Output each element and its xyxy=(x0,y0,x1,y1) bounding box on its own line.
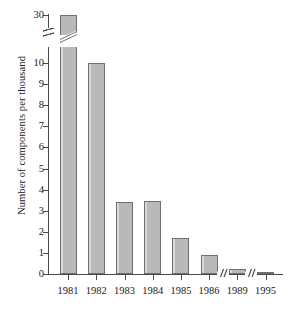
x-axis-tick-mark xyxy=(209,275,210,280)
bar-1986 xyxy=(201,255,218,274)
y-axis-tick-label: 2 xyxy=(39,227,44,238)
y-axis-title: Number of components per thousand xyxy=(16,31,27,241)
y-axis-tick-label: 0 xyxy=(39,269,44,280)
x-axis-tick-label: 1981 xyxy=(58,286,79,297)
bar-1982 xyxy=(88,63,105,274)
y-axis-tick-label: 5 xyxy=(39,163,44,174)
x-axis-tick-mark xyxy=(266,275,267,280)
x-axis-tick-mark xyxy=(181,275,182,280)
x-axis-tick-mark xyxy=(125,275,126,280)
bar-break-icon xyxy=(60,29,77,47)
x-axis-tick-mark xyxy=(153,275,154,280)
y-axis-tick-label: 9 xyxy=(39,79,44,90)
y-axis-tick-label: 4 xyxy=(39,184,44,195)
x-axis-break-icon xyxy=(245,268,257,279)
y-axis-tick-label: 3 xyxy=(39,205,44,216)
x-axis-tick-mark xyxy=(96,275,97,280)
y-axis-tick-label: 7 xyxy=(39,121,44,132)
y-axis-tick-label: 30 xyxy=(34,10,45,21)
x-axis-tick-label: 1982 xyxy=(86,286,107,297)
x-axis-tick-mark xyxy=(237,275,238,280)
bar-1985 xyxy=(172,238,189,274)
bar-1995 xyxy=(257,272,274,274)
bar-chart: Number of components per thousand 012345… xyxy=(0,0,293,311)
bar-1983 xyxy=(116,202,133,274)
bar-1981-lower xyxy=(60,47,77,274)
x-axis-tick-label: 1989 xyxy=(227,286,248,297)
x-axis-tick-label: 1983 xyxy=(114,286,135,297)
bar-1984 xyxy=(144,201,161,274)
y-axis-tick-label: 8 xyxy=(39,100,44,111)
y-axis-break-icon xyxy=(42,28,55,44)
x-axis-tick-label: 1986 xyxy=(199,286,220,297)
y-axis-tick-label: 1 xyxy=(39,248,44,259)
x-axis-tick-mark xyxy=(68,275,69,280)
y-axis-tick-label: 6 xyxy=(39,142,44,153)
x-axis-tick-label: 1995 xyxy=(255,286,276,297)
y-axis-tick-label: 10 xyxy=(34,58,45,69)
bar-1989 xyxy=(229,269,246,274)
plot-area: 01234567891030 1981198219831984198519861… xyxy=(48,14,283,275)
x-axis-tick-label: 1984 xyxy=(142,286,163,297)
y-axis-line xyxy=(48,14,49,275)
x-axis-break-icon xyxy=(217,268,229,279)
x-axis-tick-label: 1985 xyxy=(170,286,191,297)
